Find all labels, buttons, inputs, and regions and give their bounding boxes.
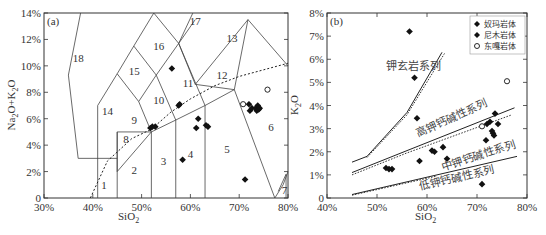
filled-diamond-marker [179,156,186,163]
legend: 奴玛岩体 尼木岩体 东嘎岩体 [470,16,525,54]
x-tick-label: 70% [229,201,249,213]
y-tick-label: 7% [309,30,324,42]
chart-canvas: 30%40%50%60%70%80%02%4%6%8%10%12%14% 123… [0,0,546,235]
field-label-3: 3 [161,155,167,167]
field-label-17: 17 [190,15,202,27]
filled-diamond-marker [242,176,249,183]
field-boundary [154,13,179,43]
legend-item-dongga: 东嘎岩体 [484,41,516,51]
x-tick-label: 70% [467,201,487,213]
filled-diamond-marker [195,115,202,122]
filled-diamond-marker [479,181,486,188]
panel-a-ylabel: Na2O+K2O [5,80,20,131]
filled-diamond-marker [414,115,421,122]
field-label-9: 9 [132,114,138,126]
legend-item-nimu: 尼木岩体 [484,30,516,40]
x-tick-label: 80% [517,201,537,213]
y-tick-label: 6% [26,113,41,125]
field-boundary [68,13,80,158]
y-tick-label: 2% [309,146,324,158]
filled-diamond-marker [483,137,490,144]
open-circle-marker [241,102,246,107]
panel-b-label: (b) [330,15,343,28]
field-label-11: 11 [183,77,194,89]
y-tick-label: 8% [309,7,324,19]
field-label-12: 12 [217,69,228,81]
field-label-16: 16 [153,40,165,52]
filled-diamond-marker [406,28,413,35]
y-tick-label: 10% [21,60,41,72]
y-tick-label: 8% [26,86,41,98]
y-tick-label: 4% [26,139,41,151]
y-tick-label: 2% [26,166,41,178]
y-tick-label: 4% [309,100,324,112]
field-boundary [139,20,196,102]
high-k-series-label: 高钾钙碱性系列 [414,96,490,139]
y-tick-label: 1% [309,169,324,181]
filled-diamond-marker [495,121,502,128]
x-tick-label: 80% [278,201,298,213]
field-label-6: 6 [268,121,274,133]
y-tick-label: 12% [21,33,41,45]
filled-diamond-marker [440,144,447,151]
y-tick-label: 3% [309,123,324,135]
y-tick-label: 6% [309,53,324,65]
y-tick-label: 14% [21,7,41,19]
x-tick-label: 50% [367,201,387,213]
field-label-13: 13 [226,32,238,44]
tas-panel: 30%40%50%60%70%80%02%4%6%8%10%12%14% 123… [5,7,298,225]
field-label-8: 8 [123,133,129,145]
filled-diamond-marker [411,74,418,81]
y-tick-label: 0 [36,192,42,204]
filled-diamond-marker [193,125,200,132]
x-tick-label: 60% [180,201,200,213]
field-label-7: 7 [282,184,288,196]
panel-a-label: (a) [47,15,60,28]
x-tick-label: 40% [83,201,103,213]
field-label-15: 15 [129,65,141,77]
open-circle-marker [265,87,270,92]
field-label-1: 1 [101,179,107,191]
y-tick-label: 0 [319,192,325,204]
field-label-2: 2 [132,164,138,176]
shoshonite-series-label: 钾玄岩系列 [386,59,441,72]
panel-b-ylabel: K2O [288,95,303,115]
field-label-18: 18 [73,52,85,64]
filled-diamond-marker [416,158,423,165]
field-label-10: 10 [153,94,165,106]
field-boundary [248,20,288,66]
k2o-sio2-panel: 40%50%60%70%80%01%2%3%4%5%6%7%8% (b) SiO… [288,7,537,225]
open-circle-marker [479,124,484,129]
field-label-14: 14 [102,105,114,117]
field-label-5: 5 [224,143,230,155]
field-label-4: 4 [188,148,194,160]
legend-item-numa: 奴玛岩体 [484,19,516,29]
open-circle-icon [475,44,480,49]
field-boundary [234,90,275,198]
filled-diamond-marker [169,65,176,72]
filled-diamond-marker [492,110,499,117]
open-circle-marker [504,79,509,84]
y-tick-label: 5% [309,76,324,88]
